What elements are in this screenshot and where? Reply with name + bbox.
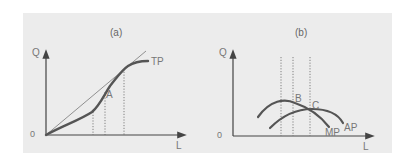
panel-a-title: (a) (110, 28, 122, 38)
panel-b-x-axis-label: L (363, 142, 369, 152)
tp-curve (46, 61, 148, 135)
tp-curve-label: TP (151, 57, 164, 67)
panel-b-title: (b) (295, 28, 307, 38)
panel-a-x-axis-label: L (176, 141, 182, 151)
panel-b-y-axis-label: Q (219, 48, 227, 58)
point-a-label: A (106, 90, 113, 100)
production-curves-diagram (0, 0, 411, 165)
panel-a-origin-label: 0 (30, 130, 35, 139)
ap-curve-label: AP (344, 123, 357, 133)
point-b-label: B (295, 94, 302, 104)
panel-a-y-axis-label: Q (32, 48, 40, 58)
panel-b-origin-label: 0 (217, 131, 222, 140)
mp-curve-label: MP (325, 128, 340, 138)
point-c-label: C (312, 101, 319, 111)
